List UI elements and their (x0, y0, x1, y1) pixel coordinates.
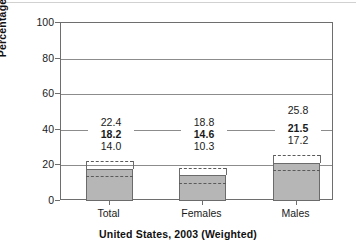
ci-upper-tick-left-females (179, 168, 180, 176)
x-axis-title: United States, 2003 (Weighted) (0, 228, 356, 240)
ci-upper-tick-right-total (133, 161, 134, 169)
y-tick-label-40: 40 (24, 123, 54, 135)
ci-upper-females (179, 168, 226, 169)
value-label-males-upper: 25.8 (275, 104, 321, 116)
y-tick-label-0: 0 (24, 194, 54, 206)
x-tick-mark-males (296, 200, 297, 205)
ci-upper-total (86, 161, 133, 162)
y-tick-mark-0 (55, 200, 60, 201)
ci-upper-tick-left-males (273, 155, 274, 163)
y-tick-label-20: 20 (24, 158, 54, 170)
value-label-total-upper: 22.4 (88, 116, 134, 128)
ci-upper-tick-right-females (226, 168, 227, 176)
y-axis-title: Percentage (0, 0, 8, 78)
value-label-females-lower: 10.3 (181, 140, 227, 152)
x-tick-mark-females (202, 200, 203, 205)
y-tick-label-80: 80 (24, 52, 54, 64)
ci-lower-total (86, 176, 133, 177)
x-category-label-males: Males (256, 207, 336, 219)
value-label-total-estimate: 18.2 (88, 128, 134, 140)
ci-upper-tick-left-total (86, 161, 87, 169)
y-tick-label-100: 100 (24, 16, 54, 28)
bar-males (273, 163, 320, 201)
x-category-label-females: Females (162, 207, 242, 219)
gridline-60 (61, 94, 332, 95)
bar-total (86, 169, 133, 201)
gridline-80 (61, 59, 332, 60)
value-label-total-lower: 14.0 (88, 140, 134, 152)
ci-lower-males (273, 170, 320, 171)
scan-artifact-line (0, 2, 356, 3)
bar-females (179, 175, 226, 201)
x-tick-mark-total (109, 200, 110, 205)
ci-upper-males (273, 155, 320, 156)
value-label-males-lower: 17.2 (275, 134, 321, 146)
ci-upper-tick-right-males (320, 155, 321, 163)
value-label-females-upper: 18.8 (181, 116, 227, 128)
ci-lower-females (179, 183, 226, 184)
y-tick-label-60: 60 (24, 87, 54, 99)
value-label-females-estimate: 14.6 (181, 128, 227, 140)
value-label-males-estimate: 21.5 (275, 122, 321, 134)
x-category-label-total: Total (69, 207, 149, 219)
chart-figure: Percentage 100 80 60 40 20 0 (0, 0, 356, 248)
